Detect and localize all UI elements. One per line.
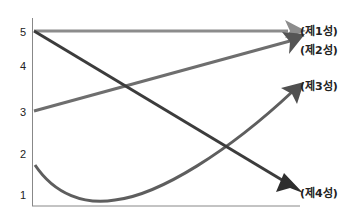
tone1-line [34, 20, 306, 38]
tone4-arrowhead-icon [276, 173, 303, 193]
y-tick-5: 5 [20, 26, 26, 38]
tone2-line [34, 32, 305, 111]
tone3-label: (제3성) [300, 79, 338, 93]
tone4-line [34, 31, 303, 193]
tone2-label: (제2성) [300, 43, 338, 57]
y-tick-2: 2 [20, 148, 26, 160]
y-tick-1: 1 [20, 189, 26, 201]
y-tick-3: 3 [20, 106, 26, 118]
y-tick-4: 4 [20, 60, 26, 72]
tone-contour-chart: 5 4 3 2 1 (제1성) (제2성) (제3성) (제4성) [0, 0, 355, 221]
tone4-label: (제4성) [300, 186, 338, 200]
tone1-label: (제1성) [300, 24, 338, 38]
